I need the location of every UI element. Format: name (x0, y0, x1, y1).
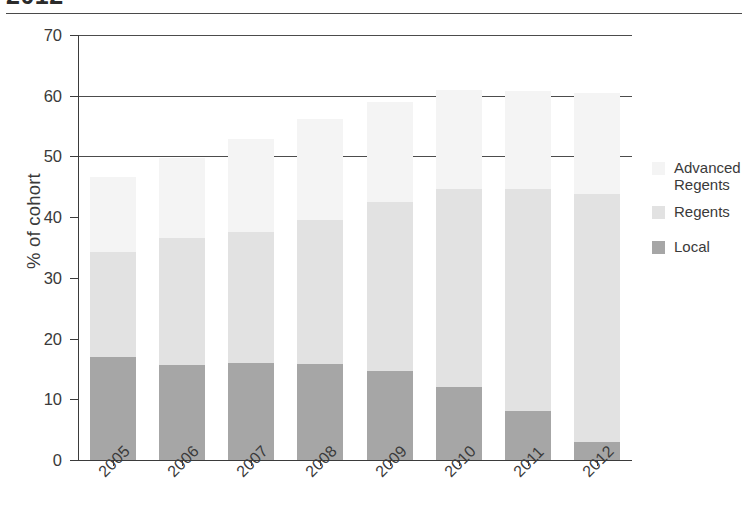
bar-segment-advanced-regents (574, 93, 620, 194)
bar-segment-regents (574, 194, 620, 442)
y-axis-label: % of cohort (23, 121, 45, 321)
bar-segment-regents (367, 202, 413, 371)
bar-segment-regents (90, 252, 136, 357)
bar-stack (228, 139, 274, 460)
y-axis-tick (70, 460, 79, 461)
y-axis-tick-label: 0 (16, 452, 62, 469)
y-axis-tick (70, 96, 79, 97)
bar-stack (367, 102, 413, 460)
bar-segment-local (90, 357, 136, 460)
legend-swatch-icon (652, 241, 665, 254)
y-axis-tick (70, 156, 79, 157)
y-axis-tick-label: 10 (16, 391, 62, 408)
bar-segment-advanced-regents (436, 90, 482, 190)
y-axis-tick (70, 399, 79, 400)
bar-segment-regents (505, 189, 551, 411)
x-axis-line (78, 460, 632, 461)
bar-segment-regents (436, 189, 482, 387)
legend-swatch-icon (652, 206, 665, 219)
chart-legend: AdvancedRegentsRegentsLocal (652, 160, 748, 266)
bar-segment-advanced-regents (228, 139, 274, 232)
gridline (78, 35, 632, 36)
legend-item: AdvancedRegents (652, 160, 748, 194)
bar-stack (297, 119, 343, 460)
bar-stack (505, 91, 551, 460)
legend-item: Local (652, 239, 748, 256)
y-axis-tick (70, 339, 79, 340)
legend-item: Regents (652, 204, 748, 221)
bar-segment-advanced-regents (90, 177, 136, 252)
bar-segment-advanced-regents (505, 91, 551, 189)
legend-item-label: AdvancedRegents (674, 160, 748, 194)
y-axis-tick (70, 35, 79, 36)
bar-segment-advanced-regents (297, 119, 343, 220)
y-axis-tick (70, 217, 79, 218)
bar-segment-regents (228, 232, 274, 363)
chart-container: 010203040506070 % of cohort 200520062007… (0, 0, 750, 518)
bar-segment-regents (297, 220, 343, 364)
y-axis-tick-label: 20 (16, 331, 62, 348)
y-axis-tick-label: 60 (16, 88, 62, 105)
legend-item-label: Local (674, 239, 748, 256)
bar-segment-local (297, 364, 343, 460)
bar-stack (159, 158, 205, 460)
bar-segment-local (159, 365, 205, 460)
bar-segment-advanced-regents (159, 158, 205, 238)
bar-segment-local (228, 363, 274, 460)
bar-segment-advanced-regents (367, 102, 413, 202)
y-axis-tick-label: 70 (16, 27, 62, 44)
bar-stack (90, 177, 136, 460)
bar-segment-regents (159, 238, 205, 365)
bar-stack (574, 93, 620, 460)
legend-item-label: Regents (674, 204, 748, 221)
bar-segment-local (367, 371, 413, 460)
bar-stack (436, 90, 482, 460)
y-axis-tick (70, 278, 79, 279)
legend-swatch-icon (652, 162, 665, 175)
y-axis-line (78, 35, 79, 461)
